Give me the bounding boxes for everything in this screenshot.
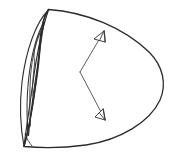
line-art-diagram	[0, 0, 174, 157]
diagram-canvas	[0, 0, 174, 157]
